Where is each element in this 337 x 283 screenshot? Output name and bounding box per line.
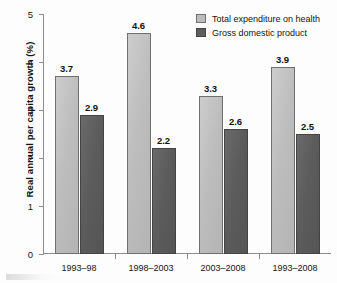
x-tick-mark (115, 254, 116, 259)
y-tick-label: 3 (28, 105, 33, 116)
bar (55, 76, 79, 254)
bar-value-label: 2.5 (301, 121, 314, 132)
x-axis-group-label: 1998–2003 (128, 263, 173, 273)
y-tick-mark: 1 (39, 206, 44, 207)
y-tick-label: 5 (28, 9, 33, 20)
x-tick-mark (259, 254, 260, 259)
bar-value-label: 4.6 (132, 20, 145, 31)
bar (224, 129, 248, 254)
bar-value-label: 2.9 (85, 102, 98, 113)
legend-swatch-icon (196, 28, 206, 37)
x-axis-group-label: 1993–2008 (272, 263, 317, 273)
scan-artifact (6, 274, 66, 280)
bar-value-label: 3.3 (204, 83, 217, 94)
bar-value-label: 3.7 (60, 63, 73, 74)
y-tick-mark: 5 (39, 14, 44, 15)
y-tick-mark: 0 (39, 254, 44, 255)
x-tick-mark (187, 254, 188, 259)
y-tick-label: 2 (28, 153, 33, 164)
y-tick-mark: 2 (39, 158, 44, 159)
bar (80, 115, 104, 254)
bar (152, 148, 176, 254)
legend-item: Total expenditure on health (196, 12, 320, 25)
y-tick-mark: 4 (39, 62, 44, 63)
bar (199, 96, 223, 254)
y-tick-label: 0 (28, 249, 33, 260)
y-tick-label: 4 (28, 57, 33, 68)
y-tick-mark: 3 (39, 110, 44, 111)
bar (296, 134, 320, 254)
x-axis-group-label: 2003–2008 (200, 263, 245, 273)
bar-chart: Real annual per capita growth (%) 012345… (0, 0, 337, 283)
legend-item: Gross domestic product (196, 26, 320, 39)
y-axis-line (43, 14, 44, 254)
legend-swatch-icon (196, 14, 206, 23)
x-axis-group-label: 1993–98 (61, 263, 96, 273)
y-tick-label: 1 (28, 201, 33, 212)
y-axis-title: Real annual per capita growth (%) (24, 15, 35, 225)
chart-legend: Total expenditure on healthGross domesti… (196, 12, 320, 40)
bar-value-label: 3.9 (276, 54, 289, 65)
bar (271, 67, 295, 254)
legend-label: Gross domestic product (212, 28, 307, 38)
legend-label: Total expenditure on health (212, 14, 320, 24)
bar-value-label: 2.6 (229, 116, 242, 127)
bar (127, 33, 151, 254)
plot-area: 012345 3.72.94.62.23.32.63.92.5 1993–981… (43, 14, 331, 254)
bar-value-label: 2.2 (157, 135, 170, 146)
